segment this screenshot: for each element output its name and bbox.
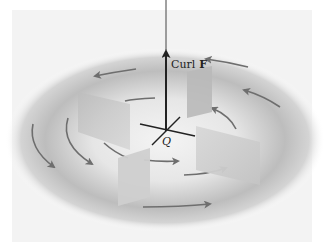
paddle-front-left bbox=[118, 148, 150, 206]
curl-label: CurlF bbox=[171, 58, 207, 71]
point-q-label: Q bbox=[162, 135, 171, 148]
paddle-back-right bbox=[187, 66, 212, 118]
diagram-canvas: CurlF Q bbox=[0, 0, 324, 251]
